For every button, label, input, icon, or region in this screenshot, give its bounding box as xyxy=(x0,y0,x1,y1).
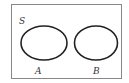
set-a-label: A xyxy=(34,66,42,76)
set-b-ellipse xyxy=(75,26,118,60)
set-a-ellipse xyxy=(21,26,67,60)
set-b-label: B xyxy=(92,66,100,76)
venn-diagram: S A B xyxy=(0,0,129,83)
universal-set-label: S xyxy=(19,16,25,26)
